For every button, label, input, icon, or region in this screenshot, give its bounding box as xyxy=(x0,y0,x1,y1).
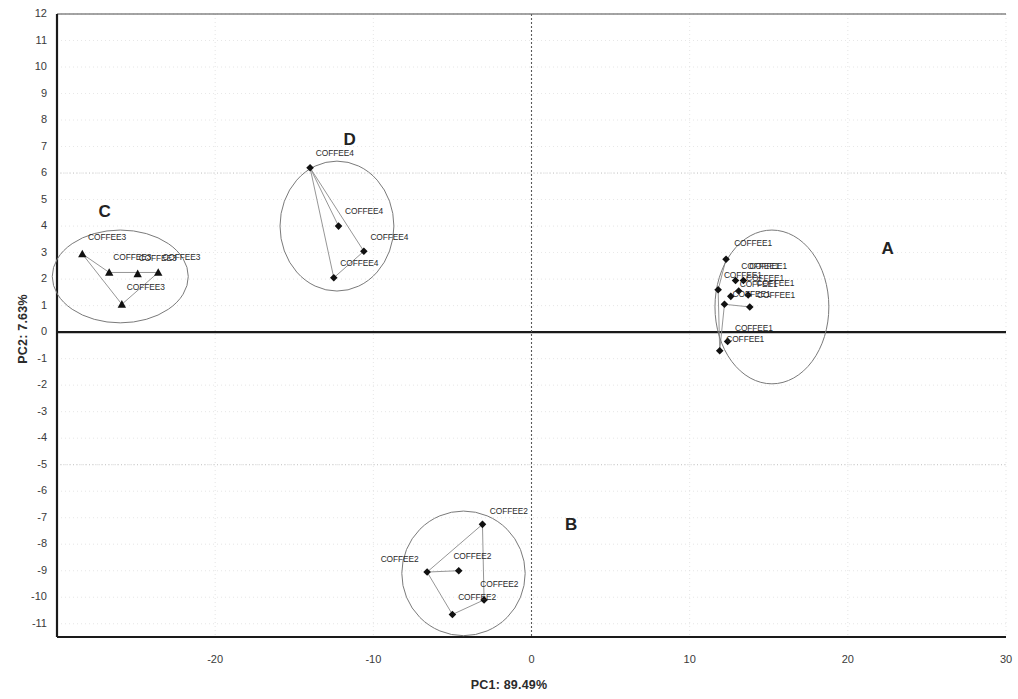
y-axis-tick-label: 8 xyxy=(15,113,47,125)
x-axis-tick-label: 0 xyxy=(512,653,552,665)
y-axis-tick-label: -7 xyxy=(15,511,47,523)
cluster-label-c: C xyxy=(98,202,110,222)
data-point-label: COFFEE3 xyxy=(88,232,126,242)
y-axis-tick-label: 10 xyxy=(15,60,47,72)
data-point-label: COFFEE3 xyxy=(127,282,165,292)
data-point-label: COFFEE2 xyxy=(480,579,518,589)
pca-scatter-chart: 1211109876543210-1-2-3-4-5-6-7-8-9-10-11… xyxy=(0,0,1018,699)
data-point-label: COFFEE1 xyxy=(734,238,772,248)
data-point-label: COFFEE4 xyxy=(345,206,383,216)
x-axis-tick-label: 20 xyxy=(828,653,868,665)
y-axis-tick-label: -3 xyxy=(15,405,47,417)
data-point-label: COFFEE4 xyxy=(340,258,378,268)
cluster-label-b: B xyxy=(565,515,577,535)
x-axis-tick-label: 30 xyxy=(986,653,1018,665)
x-axis-tick-label: 10 xyxy=(670,653,710,665)
x-axis-tick-label: -10 xyxy=(353,653,393,665)
y-axis-tick-label: -8 xyxy=(15,537,47,549)
data-point-label: COFFEE1 xyxy=(726,334,764,344)
y-axis-tick-label: 7 xyxy=(15,140,47,152)
y-axis-tick-label: 6 xyxy=(15,166,47,178)
data-point-label: COFFEE1 xyxy=(735,323,773,333)
y-axis-title: PC2: 7.63% xyxy=(16,254,30,404)
data-point-label: COFFEE2 xyxy=(458,592,496,602)
x-axis-title: PC1: 89.49% xyxy=(0,678,1018,692)
data-point-label: COFFEE1 xyxy=(756,278,794,288)
data-point-label: COFFEE1 xyxy=(757,290,795,300)
y-axis-tick-label: 4 xyxy=(15,219,47,231)
x-axis-tick-label: -20 xyxy=(195,653,235,665)
y-axis-tick-label: -10 xyxy=(15,590,47,602)
cluster-label-d: D xyxy=(344,130,356,150)
data-point-label: COFFEE2 xyxy=(490,506,528,516)
y-axis-tick-label: -5 xyxy=(15,458,47,470)
cluster-label-a: A xyxy=(881,239,893,259)
y-axis-tick-label: 11 xyxy=(15,34,47,46)
y-axis-tick-label: -9 xyxy=(15,564,47,576)
data-point-label: COFFEE4 xyxy=(370,232,408,242)
y-axis-tick-label: 9 xyxy=(15,87,47,99)
y-axis-tick-label: -6 xyxy=(15,484,47,496)
data-point-label: COFFEE2 xyxy=(453,551,491,561)
y-axis-tick-label: -4 xyxy=(15,431,47,443)
data-point-label: COFFEE2 xyxy=(381,554,419,564)
plot-area xyxy=(0,0,1018,699)
data-point-label: COFFEE3 xyxy=(162,252,200,262)
y-axis-tick-label: -11 xyxy=(15,617,47,629)
y-axis-tick-label: 5 xyxy=(15,193,47,205)
y-axis-tick-label: 12 xyxy=(15,7,47,19)
